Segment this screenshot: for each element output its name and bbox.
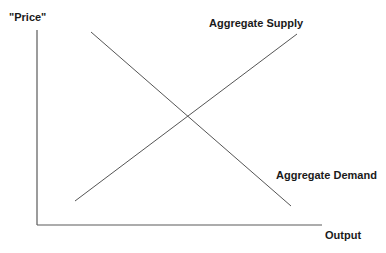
demand-label: Aggregate Demand [276, 169, 377, 181]
aggregate-supply-line [75, 34, 297, 201]
diagram-canvas [0, 0, 386, 253]
x-axis-label: Output [325, 229, 361, 241]
y-axis-label: "Price" [9, 11, 46, 23]
aggregate-demand-line [91, 32, 291, 206]
supply-label: Aggregate Supply [209, 17, 303, 29]
